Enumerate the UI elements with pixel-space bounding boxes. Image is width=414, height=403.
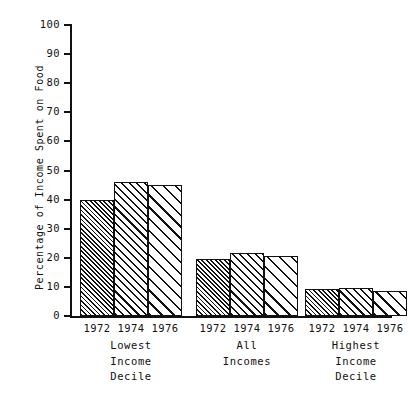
y-tick-60: [64, 140, 71, 142]
x-year-label-1972-group-2: 1972: [196, 322, 230, 334]
bar-1976-group-3: [373, 291, 407, 316]
x-year-label-1976-group-2: 1976: [264, 322, 298, 334]
bar-1976-group-2: [264, 256, 298, 316]
x-year-label-1974-group-1: 1974: [114, 322, 148, 334]
y-tick-50: [64, 170, 71, 172]
y-tick-label-80: 80: [16, 76, 60, 88]
bar-1974-group-3: [339, 288, 373, 316]
y-tick-label-text: 0: [20, 309, 60, 321]
y-tick-0: [64, 315, 71, 317]
y-tick-30: [64, 228, 71, 230]
x-group-caption-3: HighestIncomeDecile: [287, 338, 414, 385]
x-year-label-1974-group-3: 1974: [339, 322, 373, 334]
y-tick-label-text: 20: [20, 251, 60, 263]
y-tick-label-70: 70: [16, 105, 60, 117]
y-tick-100: [64, 24, 71, 26]
y-tick-label-90: 90: [16, 47, 60, 59]
y-tick-label-text: 10: [20, 280, 60, 292]
bar-1974-group-1: [114, 182, 148, 316]
y-tick-90: [64, 53, 71, 55]
x-group-caption-line: Decile: [62, 369, 200, 385]
y-tick-label-text: 40: [20, 193, 60, 205]
y-tick-40: [64, 199, 71, 201]
y-tick-label-30: 30: [16, 222, 60, 234]
y-tick-label-text: 90: [20, 47, 60, 59]
x-year-label-1976-group-1: 1976: [148, 322, 182, 334]
y-tick-label-text: 80: [20, 76, 60, 88]
x-year-label-1976-group-3: 1976: [373, 322, 407, 334]
y-axis-title: Percentage of Income Spent on Food: [34, 53, 45, 303]
x-group-caption-line: Highest: [287, 338, 414, 354]
bar-1974-group-2: [230, 253, 264, 316]
y-tick-label-20: 20: [16, 251, 60, 263]
y-tick-label-text: 30: [20, 222, 60, 234]
y-tick-label-text: 100: [20, 18, 60, 30]
x-group-caption-line: Decile: [287, 369, 414, 385]
x-year-label-1974-group-2: 1974: [230, 322, 264, 334]
y-tick-label-100: 100: [16, 18, 60, 30]
y-tick-label-40: 40: [16, 193, 60, 205]
y-tick-20: [64, 257, 71, 259]
bar-chart: Percentage of Income Spent on Food 01020…: [0, 0, 414, 403]
y-tick-label-60: 60: [16, 134, 60, 146]
x-year-label-1972-group-3: 1972: [305, 322, 339, 334]
bar-1976-group-1: [148, 185, 182, 316]
y-tick-label-10: 10: [16, 280, 60, 292]
bar-1972-group-2: [196, 259, 230, 316]
bar-1972-group-1: [80, 200, 114, 316]
y-tick-label-0: 0: [16, 309, 60, 321]
y-tick-label-50: 50: [16, 164, 60, 176]
x-group-caption-line: Income: [287, 354, 414, 370]
x-axis-line: [70, 316, 392, 318]
y-tick-70: [64, 111, 71, 113]
y-tick-label-text: 60: [20, 134, 60, 146]
bar-1972-group-3: [305, 289, 339, 316]
y-tick-label-text: 50: [20, 164, 60, 176]
x-year-label-1972-group-1: 1972: [80, 322, 114, 334]
y-tick-80: [64, 82, 71, 84]
y-tick-10: [64, 286, 71, 288]
y-tick-label-text: 70: [20, 105, 60, 117]
